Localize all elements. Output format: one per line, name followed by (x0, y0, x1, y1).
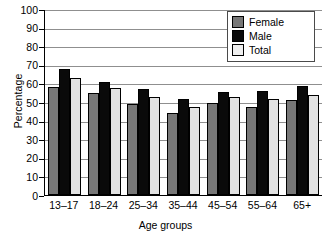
bar-total (189, 107, 200, 195)
y-tick-label: 10 (12, 172, 38, 182)
bar-female (286, 100, 297, 195)
bar-total (268, 99, 279, 195)
bar-female (207, 103, 218, 195)
legend-swatch-icon (232, 44, 244, 56)
y-tick-label: 100 (12, 5, 38, 15)
y-tick-label: 30 (12, 135, 38, 145)
bar-male (178, 99, 189, 195)
bar-total (110, 88, 121, 195)
y-tick-label: 20 (12, 153, 38, 163)
legend-swatch-icon (232, 16, 244, 28)
y-tick-label: 90 (12, 23, 38, 33)
legend-item-total: Total (232, 43, 310, 57)
legend-label: Female (249, 17, 284, 28)
bar-male (218, 92, 229, 195)
bar-female (246, 107, 257, 195)
legend-label: Male (249, 31, 272, 42)
bar-male (59, 69, 70, 195)
legend-item-male: Male (232, 29, 310, 43)
bar-chart: Percentage 1009080706050403020100 13–171… (0, 0, 331, 243)
legend: FemaleMaleTotal (227, 11, 315, 62)
x-tick-label: 65+ (272, 199, 331, 211)
y-tick-label: 50 (12, 98, 38, 108)
y-tick-label: 80 (12, 42, 38, 52)
x-axis-title: Age groups (0, 219, 331, 231)
legend-label: Total (249, 45, 271, 56)
legend-item-female: Female (232, 15, 310, 29)
bar-total (70, 78, 81, 195)
bar-total (149, 97, 160, 195)
bar-female (48, 87, 59, 195)
bar-male (297, 86, 308, 195)
bar-male (138, 89, 149, 195)
bar-group (124, 10, 164, 195)
bar-group (85, 10, 125, 195)
bar-female (167, 113, 178, 195)
legend-swatch-icon (232, 30, 244, 42)
bar-male (257, 91, 268, 195)
bar-group (164, 10, 204, 195)
y-tick-label: 40 (12, 116, 38, 126)
bar-female (127, 104, 138, 195)
bar-total (229, 97, 240, 195)
y-tick-label: 70 (12, 60, 38, 70)
y-tick-mark (39, 196, 44, 197)
bar-female (88, 93, 99, 195)
y-tick-label: 60 (12, 79, 38, 89)
bar-group (45, 10, 85, 195)
bar-total (308, 95, 319, 195)
bar-male (99, 82, 110, 195)
